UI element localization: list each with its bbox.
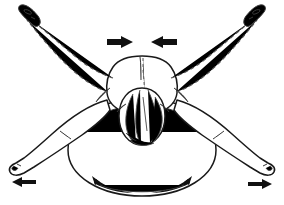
- right-arm-raised: [171, 5, 265, 92]
- scapular-arrow-right: [151, 36, 177, 48]
- hand-arrow-left: [12, 177, 36, 187]
- hand-arrow-right: [248, 179, 272, 189]
- left-arm-raised: [19, 5, 113, 92]
- illustration-canvas: Prone ball exercise with arm abduction a…: [0, 0, 284, 205]
- exercise-illustration-svg: [0, 0, 284, 205]
- scapular-arrow-left: [107, 36, 133, 48]
